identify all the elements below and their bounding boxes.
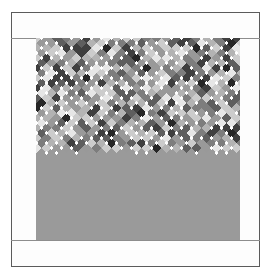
quilt-illustration-canvas — [0, 0, 270, 273]
quilt-accent-dot — [54, 151, 58, 155]
quilt-pattern-svg — [36, 38, 240, 240]
bottom-sash-rule — [11, 240, 260, 241]
quilt-accent-dot — [74, 151, 78, 155]
quilt-pattern-field — [36, 38, 240, 240]
quilt-accent-dot — [44, 151, 48, 155]
quilt-diamond-layer — [36, 38, 240, 153]
